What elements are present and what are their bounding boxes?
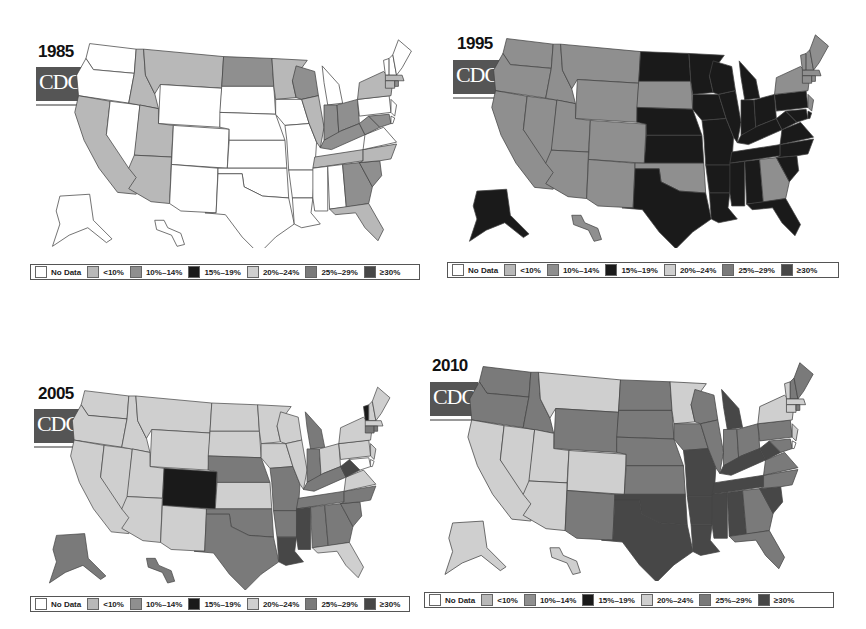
legend-item-lt10: <10% [481,594,518,606]
legend-label: 25%–29% [715,596,751,605]
state-ri [812,76,816,82]
legend-swatch [481,594,493,606]
state-wa [86,44,136,74]
state-nd [639,52,691,82]
state-ma [802,70,821,76]
legend-swatch [664,264,676,276]
legend-label: ≥30% [380,268,400,277]
state-ks [624,466,685,495]
legend-swatch [758,594,770,606]
legend-label: ≥30% [797,266,817,275]
us-map [32,38,422,248]
legend: No Data<10%10%–14%15%–19%20%–24%25%–29%≥… [30,264,420,280]
legend-swatch [247,598,259,610]
legend-swatch [429,594,441,606]
legend-swatch [547,264,559,276]
legend-swatch [524,594,536,606]
state-mi [739,61,759,100]
state-wy [575,80,638,123]
state-me [810,35,829,70]
state-ak [52,194,112,246]
legend-label: No Data [445,596,475,605]
legend-label: 20%–24% [263,268,299,277]
state-wy [554,409,619,453]
state-ct [786,405,796,413]
state-wa [479,367,531,398]
legend-swatch [35,598,47,610]
state-ms [712,492,727,538]
state-ne [220,112,285,140]
state-ne [208,456,270,482]
state-sd [208,431,261,457]
state-ct [365,426,374,433]
legend-item-20-24: 20%–24% [641,594,693,606]
legend-label: No Data [468,266,498,275]
state-ct [802,76,811,83]
legend-item-ge30: ≥30% [758,594,794,606]
state-ar [289,170,315,198]
legend-swatch [605,264,617,276]
legend-label: <10% [520,266,541,275]
state-me [393,40,412,75]
state-ma [365,421,383,426]
state-ks [644,135,704,163]
state-ct [385,81,394,88]
state-sd [617,410,674,439]
state-ks [227,140,287,168]
state-nd [619,380,672,411]
legend-swatch [87,266,99,278]
legend: No Data<10%10%–14%15%–19%20%–24%25%–29%≥… [424,592,834,608]
legend-swatch [188,266,200,278]
state-ak [49,534,105,583]
legend-label: 15%–19% [204,268,240,277]
legend-label: 25%–29% [321,600,357,609]
state-mi [322,66,342,105]
state-wa [81,391,129,419]
legend-item-10-14: 10%–14% [547,264,599,276]
state-co [162,468,217,509]
legend-swatch [35,266,47,278]
state-wi [691,389,718,423]
legend-item-lt10: <10% [87,598,124,610]
state-de [391,116,395,123]
state-az [523,481,567,531]
state-wa [503,39,553,69]
state-ks [215,482,271,508]
state-mi [722,389,743,429]
state-ri [374,426,378,431]
legend-item-ge30: ≥30% [364,598,400,610]
legend-swatch [305,266,317,278]
state-hi [146,558,174,583]
state-me [794,363,813,399]
state-ar [274,511,299,537]
legend-item-no-data: No Data [35,266,81,278]
legend-item-15-19: 15%–19% [188,266,240,278]
state-co [567,450,626,494]
state-hi [550,548,581,575]
state-az [546,150,589,198]
state-ma [786,399,805,405]
legend-label: 10%–14% [146,268,182,277]
state-wy [150,430,210,471]
legend-item-20-24: 20%–24% [247,598,299,610]
legend-item-ge30: ≥30% [781,264,817,276]
state-ne [617,437,684,466]
legend-item-25-29: 25%–29% [305,598,357,610]
state-ak [469,189,529,241]
legend-label: No Data [51,600,81,609]
state-ak [445,521,506,574]
state-wi [709,61,735,94]
legend-item-15-19: 15%–19% [605,264,657,276]
map-panel-1985: 1985 CDC No Data<10%10%–14%15%–19%20%–24… [0,0,433,300]
us-map [449,28,839,248]
state-hi [155,220,185,246]
state-ri [395,81,399,87]
legend-item-20-24: 20%–24% [664,264,716,276]
state-nj [371,444,376,460]
legend-swatch [130,266,142,278]
legend-label: ≥30% [774,596,794,605]
legend-swatch [247,266,259,278]
legend-label: <10% [497,596,518,605]
state-co [172,125,230,168]
state-ri [796,405,800,411]
